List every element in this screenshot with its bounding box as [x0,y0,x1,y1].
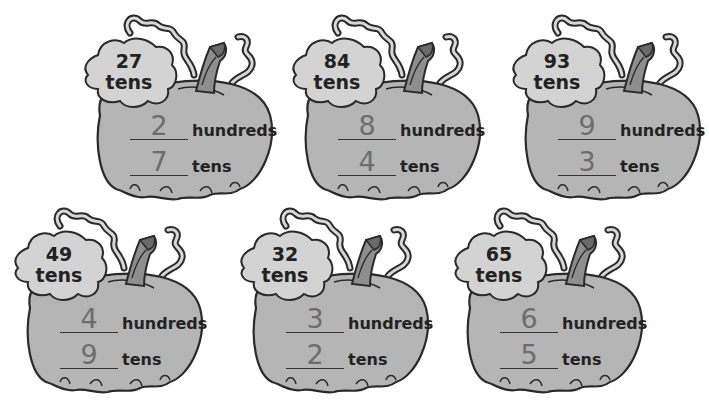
hundreds-answer-blank[interactable]: 8 [338,111,396,140]
tens-label: tens [562,351,601,369]
tens-row: 9 tens [60,340,161,369]
hundreds-row: 2 hundreds [130,111,277,140]
hundreds-handwritten-answer: 2 [130,110,188,141]
hundreds-row: 6 hundreds [500,304,647,333]
total-tens-label: 84 tens [302,51,372,93]
tens-row: 2 tens [286,340,387,369]
tens-row: 5 tens [500,340,601,369]
total-unit: tens [24,265,94,286]
tens-label: tens [122,351,161,369]
total-unit: tens [250,265,320,286]
tens-answer-blank[interactable]: 4 [338,147,396,176]
total-tens-label: 27 tens [94,51,164,93]
total-tens-label: 65 tens [464,244,534,286]
hundreds-row: 9 hundreds [558,111,705,140]
tens-label: tens [620,158,659,176]
tens-handwritten-answer: 9 [60,339,118,370]
hundreds-label: hundreds [122,315,207,333]
total-number: 49 [24,244,94,265]
tens-handwritten-answer: 5 [500,339,558,370]
tens-row: 3 tens [558,147,659,176]
total-number: 32 [250,244,320,265]
tens-row: 7 tens [130,147,231,176]
hundreds-label: hundreds [192,122,277,140]
hundreds-answer-blank[interactable]: 3 [286,304,344,333]
pumpkin-problem: 49 tens 4 hundreds 9 tens [0,198,220,398]
hundreds-row: 3 hundreds [286,304,433,333]
hundreds-row: 8 hundreds [338,111,485,140]
hundreds-answer-blank[interactable]: 2 [130,111,188,140]
tens-answer-blank[interactable]: 2 [286,340,344,369]
pumpkin-problem: 93 tens 9 hundreds 3 tens [488,5,709,205]
hundreds-handwritten-answer: 3 [286,303,344,334]
hundreds-answer-blank[interactable]: 4 [60,304,118,333]
hundreds-handwritten-answer: 9 [558,110,616,141]
hundreds-label: hundreds [400,122,485,140]
hundreds-handwritten-answer: 4 [60,303,118,334]
tens-answer-blank[interactable]: 7 [130,147,188,176]
hundreds-row: 4 hundreds [60,304,207,333]
pumpkin-problem: 65 tens 6 hundreds 5 tens [430,198,660,398]
hundreds-label: hundreds [562,315,647,333]
hundreds-handwritten-answer: 8 [338,110,396,141]
hundreds-handwritten-answer: 6 [500,303,558,334]
tens-row: 4 tens [338,147,439,176]
tens-answer-blank[interactable]: 9 [60,340,118,369]
hundreds-answer-blank[interactable]: 9 [558,111,616,140]
tens-handwritten-answer: 4 [338,146,396,177]
tens-label: tens [400,158,439,176]
tens-handwritten-answer: 3 [558,146,616,177]
total-number: 27 [94,51,164,72]
hundreds-label: hundreds [620,122,705,140]
tens-label: tens [192,158,231,176]
total-unit: tens [302,72,372,93]
total-unit: tens [522,72,592,93]
pumpkin-problem: 84 tens 8 hundreds 4 tens [268,5,498,205]
tens-answer-blank[interactable]: 3 [558,147,616,176]
pumpkin-problem: 27 tens 2 hundreds 7 tens [60,5,290,205]
tens-label: tens [348,351,387,369]
total-tens-label: 49 tens [24,244,94,286]
pumpkin-problem: 32 tens 3 hundreds 2 tens [216,198,446,398]
tens-handwritten-answer: 2 [286,339,344,370]
total-unit: tens [464,265,534,286]
total-unit: tens [94,72,164,93]
hundreds-answer-blank[interactable]: 6 [500,304,558,333]
total-number: 93 [522,51,592,72]
tens-handwritten-answer: 7 [130,146,188,177]
tens-answer-blank[interactable]: 5 [500,340,558,369]
total-tens-label: 32 tens [250,244,320,286]
total-number: 84 [302,51,372,72]
total-tens-label: 93 tens [522,51,592,93]
hundreds-label: hundreds [348,315,433,333]
total-number: 65 [464,244,534,265]
